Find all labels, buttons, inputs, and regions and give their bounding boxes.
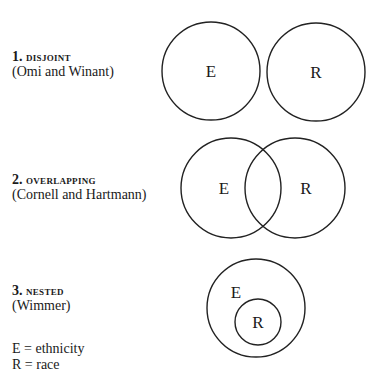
circle-ethnicity: [181, 138, 281, 238]
circle-label-r: R: [310, 63, 322, 82]
circle-label-e: E: [219, 179, 229, 198]
circle-label-r: R: [300, 179, 312, 198]
disjoint-diagram: E R: [162, 22, 365, 121]
circle-label-r: R: [252, 313, 264, 332]
nested-diagram: E R: [207, 259, 305, 357]
circle-ethnicity-outer: [207, 259, 305, 357]
venn-diagrams: E R E R E R: [0, 0, 375, 376]
circle-label-e: E: [231, 283, 241, 302]
circle-race: [245, 138, 345, 238]
overlapping-diagram: E R: [181, 138, 345, 238]
circle-label-e: E: [206, 62, 216, 81]
